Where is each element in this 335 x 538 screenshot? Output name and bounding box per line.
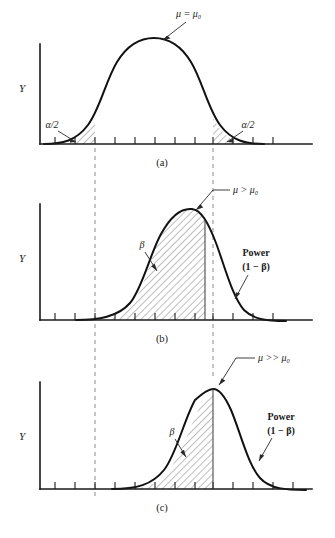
panel-a-center-label: μ = μ₀ <box>175 8 202 19</box>
panel-c-center-label: μ >> μ₀ <box>257 352 291 363</box>
panel-b-beta-region <box>95 209 205 320</box>
panel-a-alpha-left-label: α/2 <box>45 119 58 130</box>
panel-c-power-label-line2: (1 − β) <box>267 425 295 437</box>
panel-c: Y μ >> μ₀ β <box>19 352 312 514</box>
panel-a-y-axis-label: Y <box>19 82 27 94</box>
panel-b-power-arrowhead <box>235 292 240 299</box>
panel-c-beta-region <box>128 390 213 489</box>
panel-b-beta-label: β <box>139 239 145 250</box>
panel-c-center-arrowhead <box>219 378 225 385</box>
panel-c-power-arrowhead <box>259 454 264 461</box>
panel-c-y-axis-label: Y <box>19 430 27 442</box>
panel-a-alpha-right-label: α/2 <box>241 119 254 130</box>
panel-b-power-label-line1: Power <box>242 247 270 258</box>
panel-c-caption: (c) <box>156 502 168 514</box>
panel-b-center-label: μ > μ₀ <box>232 184 259 195</box>
panel-b: Y μ > μ₀ β <box>19 184 312 345</box>
panel-c-beta-label: β <box>169 426 175 437</box>
panel-b-center-arrowhead <box>196 204 203 210</box>
panel-a-caption: (a) <box>156 157 168 169</box>
panel-b-y-axis-label: Y <box>19 252 27 264</box>
panel-b-power-label-line2: (1 − β) <box>242 261 270 273</box>
power-curves-figure: Y μ = μ₀ α/2 <box>0 0 335 538</box>
panel-a: Y μ = μ₀ α/2 <box>19 8 312 169</box>
panel-b-caption: (b) <box>156 333 169 345</box>
panel-a-normal-curve <box>44 38 264 144</box>
panel-c-power-label-line1: Power <box>267 411 295 422</box>
